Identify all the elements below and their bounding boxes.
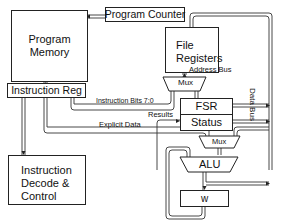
instruction-register-block: Instruction Reg (7, 83, 86, 98)
file-registers-label-1: File (176, 40, 194, 51)
instruction-bits-label: Instruction Bits 7:0 (96, 97, 154, 104)
instruction-register-label: Instruction Reg (11, 85, 82, 96)
program-memory-label-2: Memory (30, 47, 70, 58)
mux-top-label: Mux (178, 79, 193, 87)
results-label: Results (148, 111, 173, 119)
processor-block-diagram: Program Memory Program Counter File Regi… (0, 0, 287, 223)
alu-label: ALU (199, 159, 220, 170)
decode-label-3: Control (21, 191, 56, 202)
mux-bottom-label: Mux (212, 138, 226, 146)
file-registers-label-2: Registers (176, 53, 222, 64)
explicit-data-label: Explicit Data (99, 121, 141, 129)
decode-label-2: Decode & (21, 178, 69, 189)
fsr-label: FSR (196, 101, 218, 112)
program-counter-label: Program Counter (105, 9, 186, 20)
status-label: Status (191, 117, 222, 128)
program-memory-label-1: Program (28, 34, 70, 45)
decode-label-1: Instruction (21, 165, 72, 176)
w-register-label: w (201, 194, 208, 204)
program-counter-block: Program Counter (105, 7, 185, 22)
status-block: Status (180, 114, 233, 131)
data-bus-label: Data Bus (248, 88, 256, 121)
address-bus-label: Address Bus (189, 66, 232, 74)
program-memory-block: Program Memory (11, 10, 88, 82)
fsr-block: FSR (180, 98, 233, 115)
instruction-decode-control-block: Instruction Decode & Control (8, 155, 86, 205)
w-register-block: w (180, 190, 229, 207)
